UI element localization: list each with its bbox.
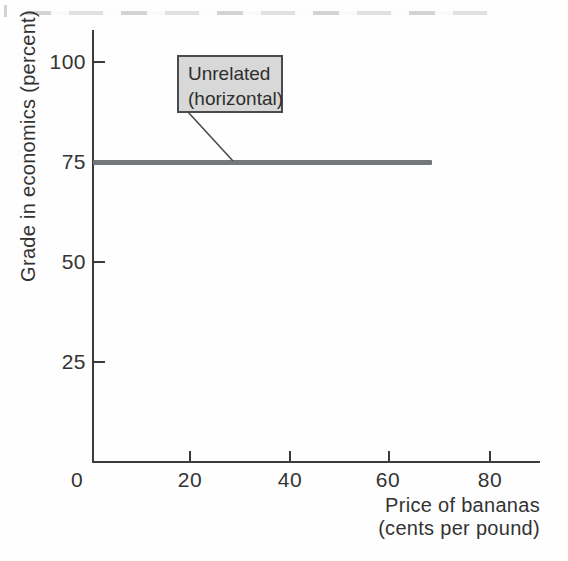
scan-artifact-streak <box>25 11 495 15</box>
x-axis-title-line1: Price of bananas <box>378 494 540 517</box>
annotation-text-line1: Unrelated <box>188 61 281 86</box>
y-axis-title: Grade in economics (percent) <box>17 10 40 282</box>
x-tick-60 <box>388 451 390 461</box>
x-axis-title-line2: (cents per pound) <box>378 517 540 540</box>
y-tick-label-100: 100 <box>38 50 86 74</box>
x-tick-20 <box>189 451 191 461</box>
unrelated-demand-line <box>93 160 432 165</box>
x-tick-80 <box>489 451 491 461</box>
y-tick-100 <box>94 61 105 63</box>
y-tick-label-25: 25 <box>38 350 86 374</box>
x-tick-label-20: 20 <box>168 468 212 492</box>
y-tick-label-50: 50 <box>38 250 86 274</box>
x-tick-label-0: 0 <box>55 468 99 492</box>
x-axis-title: Price of bananas (cents per pound) <box>378 494 540 540</box>
x-tick-label-40: 40 <box>268 468 312 492</box>
annotation-callout-box: Unrelated (horizontal) <box>177 55 283 113</box>
y-tick-50 <box>94 261 105 263</box>
y-axis-line <box>92 30 94 463</box>
x-tick-40 <box>289 451 291 461</box>
x-axis-line <box>92 461 540 463</box>
economics-chart-figure: Grade in economics (percent) 100 75 50 2… <box>0 0 568 561</box>
annotation-text-line2: (horizontal) <box>188 86 281 111</box>
y-tick-label-75: 75 <box>38 150 86 174</box>
page-edge-mark <box>4 5 7 17</box>
y-tick-25 <box>94 361 105 363</box>
x-tick-label-80: 80 <box>468 468 512 492</box>
x-tick-label-60: 60 <box>366 468 410 492</box>
